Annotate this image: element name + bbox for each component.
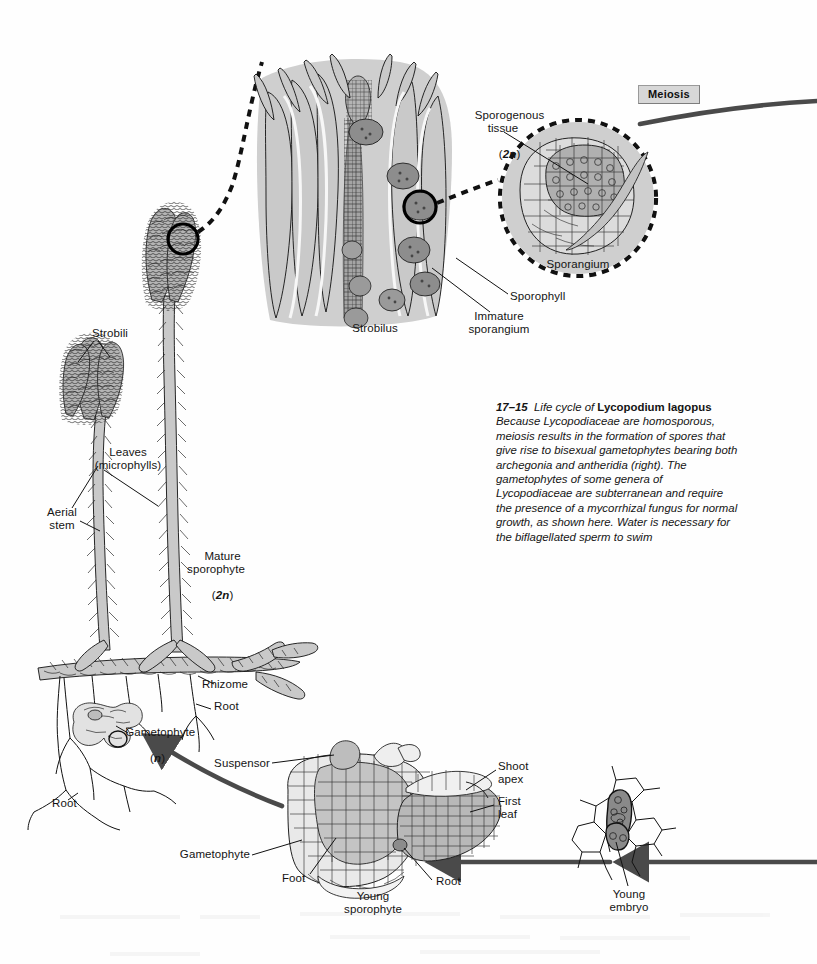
meiosis-label: Meiosis	[638, 85, 700, 104]
label-strobili: Strobili	[92, 327, 128, 340]
label-gametophyte-plant: Gametophyte (n)	[112, 713, 190, 778]
label-root-upper: Root	[214, 700, 239, 713]
figure-title-lead: Life cycle of	[534, 401, 594, 413]
label-foot: Foot	[282, 872, 305, 885]
label-leaves-microphylls: Leaves (microphylls)	[82, 446, 174, 472]
label-aerial-stem: Aerial stem	[36, 506, 88, 532]
label-rhizome: Rhizome	[202, 678, 248, 691]
label-young-sporophyte: Young sporophyte	[330, 890, 416, 916]
figure-number: 17–15	[496, 401, 528, 413]
label-root-embryo: Root	[436, 875, 461, 888]
label-root-lower: Root	[52, 797, 77, 810]
label-immature-sporangium: Immature sporangium	[452, 310, 546, 336]
label-first-leaf: First leaf	[498, 795, 521, 821]
label-sporangium: Sporangium	[528, 258, 628, 271]
label-sporophyll: Sporophyll	[510, 290, 565, 303]
label-strobilus: Strobilus	[330, 322, 420, 335]
figure-caption: 17–15 Life cycle of Lycopodium lagopus B…	[496, 400, 739, 544]
label-sporogenous-tissue: Sporogenoustissue (2n)	[448, 96, 558, 174]
figure-page: Meiosis Sporogenoustissue (2n) Sporangiu…	[0, 0, 817, 964]
label-young-embryo: Young embryo	[598, 888, 660, 914]
label-gametophyte-embryo: Gametophyte	[178, 848, 250, 861]
figure-species: Lycopodium lagopus	[597, 401, 711, 413]
label-suspensor: Suspensor	[196, 757, 270, 770]
label-shoot-apex: Shoot apex	[498, 760, 529, 786]
figure-body: Because Lycopodiaceae are homosporous, m…	[496, 415, 737, 542]
label-mature-sporophyte: Maturesporophyte (2n)	[176, 537, 256, 615]
